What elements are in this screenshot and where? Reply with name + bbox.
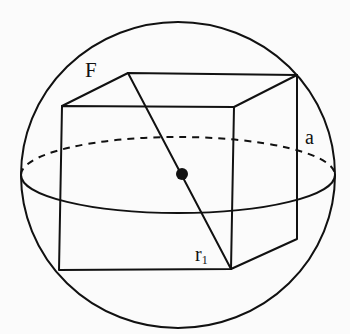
sphere-cube-diagram: F a r1 xyxy=(0,0,350,334)
edge-length-label: a xyxy=(305,127,314,147)
radius-label-base: r xyxy=(195,243,202,265)
diagram-canvas xyxy=(0,0,350,334)
cube-top-face-edges xyxy=(62,73,297,107)
radius-label-subscript: 1 xyxy=(202,253,208,267)
equator-front-solid xyxy=(21,175,335,213)
radius-label: r1 xyxy=(195,244,208,266)
cube-front-face xyxy=(59,106,234,270)
sphere-label: F xyxy=(85,60,97,81)
center-point xyxy=(176,168,188,180)
